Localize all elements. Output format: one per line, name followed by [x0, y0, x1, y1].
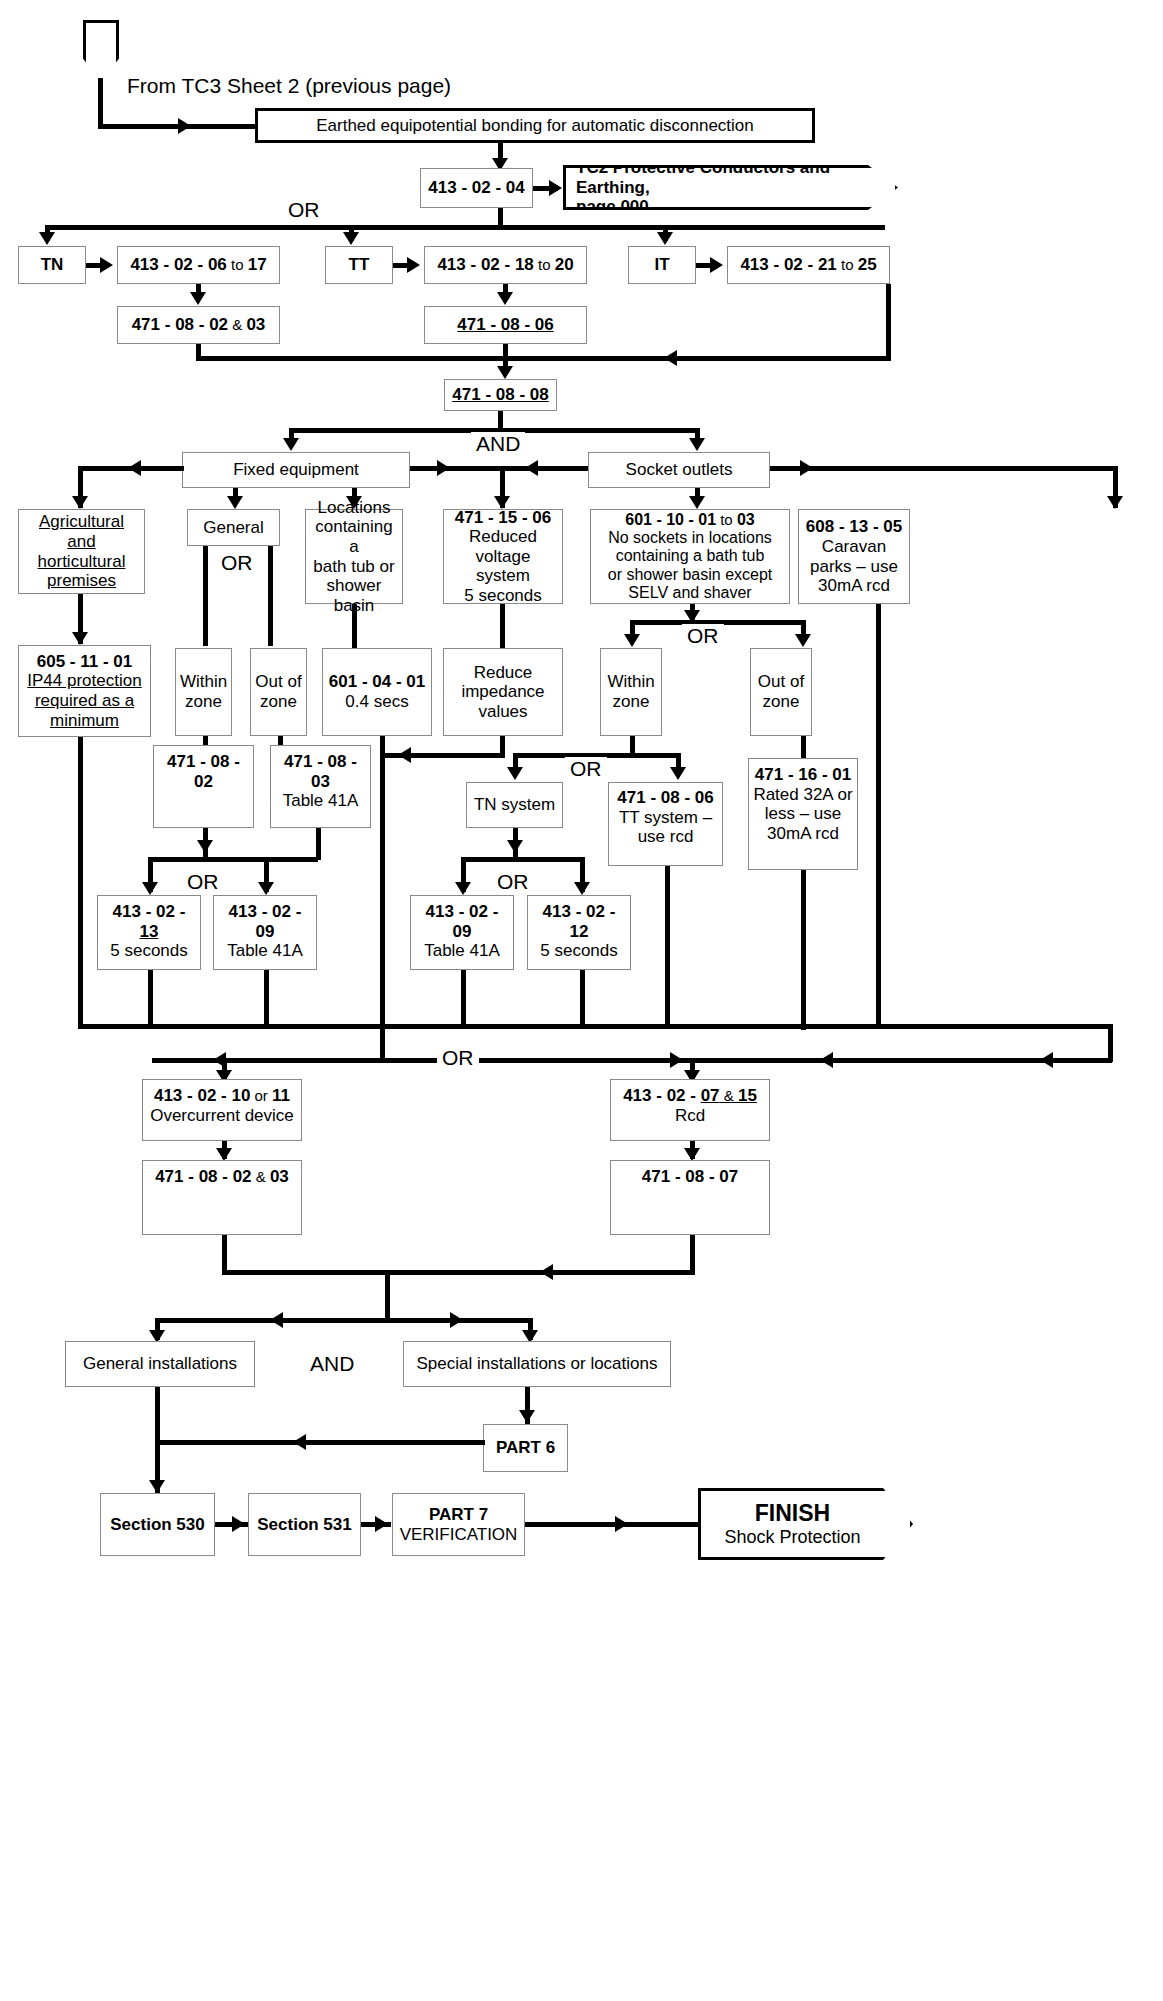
node-413-02-13[interactable]: 413 - 02 - 13 5 seconds — [97, 895, 201, 970]
arrow-into-agricultural — [72, 496, 88, 509]
node-471-08-07[interactable]: 471 - 08 - 07 — [610, 1160, 770, 1235]
bus-or-bottom — [152, 1058, 1112, 1063]
node-reduce-impedance[interactable]: Reduce impedance values — [443, 648, 563, 736]
arrow-or-bottom-left2 — [820, 1052, 833, 1068]
connector-general-within — [203, 546, 208, 646]
bus-or-systems — [45, 225, 885, 230]
arrow-into-tc2 — [549, 180, 562, 196]
node-out-of-zone-fixed[interactable]: Out of zone — [250, 648, 307, 736]
node-471-08-02[interactable]: 471 - 08 - 02 — [153, 745, 254, 828]
arrow-fixed-right — [437, 460, 450, 476]
node-608-13-05[interactable]: 608 - 13 - 05 Caravan parks – use 30mA r… — [798, 509, 910, 604]
arrow-into-general — [227, 496, 243, 509]
node-tn[interactable]: TN — [18, 246, 86, 284]
arrow-fixed-left — [128, 460, 141, 476]
connector-471-reduce-down — [500, 604, 505, 648]
node-471-08-06-tt-rcd[interactable]: 471 - 08 - 06 TT system – use rcd — [608, 782, 723, 866]
node-finish[interactable]: FINISH Shock Protection — [698, 1488, 913, 1560]
rail-413-09b-down — [461, 970, 466, 1028]
arrow-into-out-of-zone-socket — [795, 634, 811, 647]
node-471-08-08[interactable]: 471 - 08 - 08 — [444, 379, 557, 411]
connector-out-socket-down — [801, 736, 806, 758]
label-or-413-left: OR — [182, 870, 224, 894]
rail-471-16-down — [801, 870, 806, 1030]
arrow-into-tn — [39, 232, 55, 245]
rail-right-outer-down — [1108, 1024, 1113, 1062]
arrow-into-it — [657, 232, 673, 245]
bus-merge-and-bottom — [222, 1270, 695, 1275]
node-471-08-02-03-b[interactable]: 471 - 08 - 02 & 03 — [142, 1160, 302, 1235]
node-within-zone-fixed[interactable]: Within zone — [175, 648, 232, 736]
arrow-it-to-413 — [710, 257, 723, 273]
node-earthed-bonding[interactable]: Earthed equipotential bonding for automa… — [255, 108, 815, 143]
node-413-02-12[interactable]: 413 - 02 - 12 5 seconds — [527, 895, 631, 970]
connector-part7-finish — [525, 1522, 698, 1527]
arrow-into-601-10-01 — [689, 496, 705, 509]
arrow-into-605-11-01 — [72, 632, 88, 645]
start-connector-tag — [83, 20, 119, 82]
node-471-08-06-tt[interactable]: 471 - 08 - 06 — [424, 306, 587, 344]
arrow-or-bottom-right — [670, 1052, 683, 1068]
arrow-tn-to-413 — [100, 257, 113, 273]
node-part7[interactable]: PART 7 VERIFICATION — [392, 1493, 525, 1556]
arrow-471-02-down — [197, 840, 213, 853]
node-413-02-09-b[interactable]: 413 - 02 - 09 Table 41A — [410, 895, 514, 970]
node-605-11-01[interactable]: 605 - 11 - 01 IP44 protection required a… — [18, 645, 151, 737]
node-socket-outlets[interactable]: Socket outlets — [588, 452, 770, 488]
arrow-into-471-08-06 — [497, 292, 513, 305]
node-tc2-pointer[interactable]: TC2 Protective Conductors and Earthing, … — [563, 165, 898, 210]
arrow-into-413-02-09-a — [258, 882, 274, 895]
arrow-and-left — [270, 1312, 283, 1328]
node-section-530[interactable]: Section 530 — [100, 1493, 215, 1556]
node-413-02-07-15[interactable]: 413 - 02 - 07 & 15 Rcd — [610, 1079, 770, 1141]
arrow-into-within-zone-socket — [624, 634, 640, 647]
arrow-tt-to-413 — [407, 257, 420, 273]
arrow-into-tt — [343, 232, 359, 245]
node-413-02-21-25[interactable]: 413 - 02 - 21 to 25 — [727, 246, 890, 284]
rail-tt-rcd-down — [665, 866, 670, 1028]
node-locations-bath[interactable]: Locations containing a bath tub or showe… — [305, 509, 403, 604]
arrow-into-608-13-05 — [1107, 496, 1123, 509]
node-413-02-04[interactable]: 413 - 02 - 04 — [420, 168, 533, 208]
node-601-10-01-03[interactable]: 601 - 10 - 01 to 03 No sockets in locati… — [590, 509, 790, 604]
entry-label: From TC3 Sheet 2 (previous page) — [122, 74, 456, 98]
arrow-or-bottom-left3 — [1040, 1052, 1053, 1068]
node-section-531[interactable]: Section 531 — [248, 1493, 361, 1556]
arrow-into-471-08-08 — [497, 366, 513, 379]
label-and-equipment: AND — [471, 432, 525, 456]
node-general-installations[interactable]: General installations — [65, 1341, 255, 1387]
connector-471-02-03b-down — [222, 1235, 227, 1273]
arrow-into-tn-system — [507, 767, 523, 780]
node-fixed-equipment[interactable]: Fixed equipment — [182, 452, 410, 488]
node-471-08-02-03-a[interactable]: 471 - 08 - 02 & 03 — [117, 306, 280, 344]
arrow-into-413-02-09-b — [455, 882, 471, 895]
connector-socket-right — [770, 466, 1118, 471]
arrow-into-413-02-13 — [142, 882, 158, 895]
node-471-15-06[interactable]: 471 - 15 - 06 Reduced voltage system 5 s… — [443, 509, 563, 604]
arrow-into-471-08-02-03-a — [190, 292, 206, 305]
node-out-of-zone-socket[interactable]: Out of zone — [750, 648, 812, 736]
node-413-02-18-20[interactable]: 413 - 02 - 18 to 20 — [424, 246, 587, 284]
node-471-08-03[interactable]: 471 - 08 - 03 Table 41A — [270, 745, 371, 828]
connector-it-chain-down — [886, 284, 891, 360]
arrow-into-471-08-06-tt2 — [670, 767, 686, 780]
node-part6[interactable]: PART 6 — [483, 1424, 568, 1472]
node-general[interactable]: General — [187, 509, 280, 546]
node-it[interactable]: IT — [628, 246, 696, 284]
node-tn-system[interactable]: TN system — [466, 782, 563, 828]
connector-tag-right — [98, 124, 256, 129]
bus-and-installations — [155, 1318, 533, 1323]
node-agricultural-premises[interactable]: Agricultural and horticultural premises — [18, 509, 145, 594]
node-tt[interactable]: TT — [325, 246, 393, 284]
node-601-04-01[interactable]: 601 - 04 - 01 0.4 secs — [322, 648, 432, 736]
node-471-16-01[interactable]: 471 - 16 - 01 Rated 32A or less – use 30… — [748, 758, 858, 870]
node-within-zone-socket[interactable]: Within zone — [600, 648, 662, 736]
bus-merge-bottom — [78, 1024, 878, 1029]
node-413-02-06-17[interactable]: 413 - 02 - 06 to 17 — [117, 246, 280, 284]
node-413-02-09-a[interactable]: 413 - 02 - 09 Table 41A — [213, 895, 317, 970]
node-413-02-10-11[interactable]: 413 - 02 - 10 or 11 Overcurrent device — [142, 1079, 302, 1141]
rail-413-09a-down — [264, 970, 269, 1028]
rail-general-down — [155, 1387, 160, 1495]
node-special-installations[interactable]: Special installations or locations — [403, 1341, 671, 1387]
arrow-into-socket-outlets — [689, 438, 705, 451]
